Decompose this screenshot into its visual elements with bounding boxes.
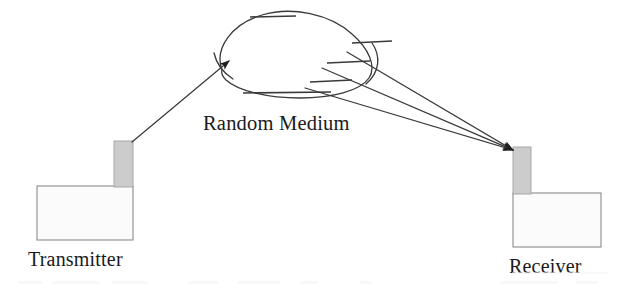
scattered-ray-upper xyxy=(347,52,513,150)
hatch-inner-upper-icon xyxy=(352,41,392,43)
scattered-rays-group xyxy=(305,52,513,150)
transmitter-label: Transmitter xyxy=(28,248,123,270)
random-medium-label: Random Medium xyxy=(203,112,350,134)
scattered-ray-middle xyxy=(322,68,513,150)
hatch-inner-low-icon xyxy=(310,80,352,82)
hatch-top-icon xyxy=(250,16,296,17)
receiver-base-box xyxy=(513,193,601,247)
random-medium-propagation-diagram: Transmitter Receiver xyxy=(0,0,629,292)
transmitter-group: Transmitter xyxy=(28,141,133,270)
receiver-tower xyxy=(513,147,531,194)
scan-artifacts xyxy=(18,272,608,284)
transmitter-base-box xyxy=(37,186,133,240)
receiver-group: Receiver xyxy=(509,147,601,277)
random-medium-blob-outline xyxy=(220,11,372,98)
figure-root: Transmitter Receiver xyxy=(0,0,629,292)
random-medium-blob-group xyxy=(214,11,392,98)
transmitter-tower xyxy=(114,141,133,187)
